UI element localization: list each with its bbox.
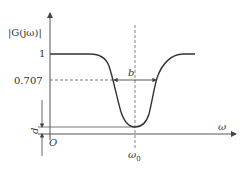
- center-frequency-subscript: 0: [136, 155, 140, 163]
- depth-label: d: [29, 128, 40, 134]
- center-frequency-label: ω0: [128, 149, 141, 163]
- x-axis-label: ω: [218, 121, 226, 132]
- magnitude-curve: [50, 54, 195, 127]
- bandwidth-label: b: [128, 67, 134, 78]
- origin-label: O: [49, 137, 57, 148]
- y-tick-0707: 0.707: [14, 75, 43, 86]
- filter-response-diagram: |G(jω)| 1 0.707 b O ω d ω0: [0, 0, 248, 173]
- y-tick-1: 1: [39, 48, 45, 59]
- y-axis-label: |G(jω)|: [8, 27, 42, 39]
- center-frequency-symbol: ω: [128, 149, 136, 160]
